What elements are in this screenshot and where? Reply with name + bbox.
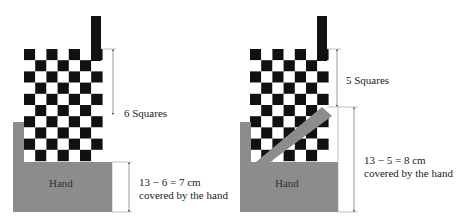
left-upper-label: 6 Squares [124, 107, 167, 120]
left-checkerboard [24, 49, 103, 161]
left-ruler-bar [91, 16, 101, 61]
right-lower-label-line1: 13 − 5 = 8 cm [364, 154, 426, 167]
right-figure [240, 16, 358, 212]
right-upper-label: 5 Squares [346, 74, 389, 87]
right-hand-label: Hand [275, 177, 299, 189]
left-lower-label-line2: covered by the hand [139, 189, 228, 202]
left-lower-label-line1: 13 − 6 = 7 cm [139, 176, 201, 189]
left-hand-label: Hand [49, 177, 73, 189]
right-ruler-bar [317, 16, 327, 61]
right-lower-label-line2: covered by the hand [364, 167, 453, 180]
